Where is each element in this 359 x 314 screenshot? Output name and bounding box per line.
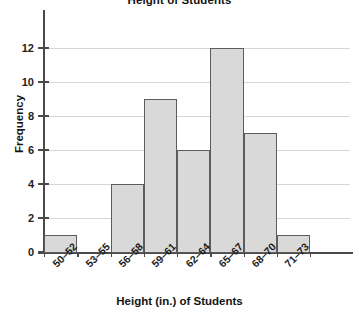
gridline [44,116,350,117]
x-axis-tick [310,252,311,257]
histogram-bar[interactable] [210,48,243,253]
x-axis-tick [244,252,245,257]
y-axis-tick-label: 0 [0,246,34,258]
y-axis-tick-label: 2 [0,212,34,224]
x-axis-tick [177,252,178,257]
gridline [44,82,350,83]
y-axis-title: Frequency [13,79,25,169]
histogram-plot-area: 024681012 50–5253–5556–5859–6162–6465–67… [0,0,359,314]
histogram-bar[interactable] [244,133,277,253]
histogram-bar[interactable] [177,150,210,253]
histogram-bar[interactable] [144,99,177,253]
x-axis-title: Height (in.) of Students [0,295,359,307]
y-axis-line [43,10,45,253]
x-axis-tick [44,252,45,257]
x-axis-tick [111,252,112,257]
y-axis-tick-label: 12 [0,42,34,54]
x-axis-tick [77,252,78,257]
y-axis-tick-label: 4 [0,178,34,190]
x-axis-tick [144,252,145,257]
x-axis-tick [277,252,278,257]
x-axis-tick [210,252,211,257]
gridline [44,48,350,49]
x-axis-tick-label: 53–55 [83,240,112,269]
